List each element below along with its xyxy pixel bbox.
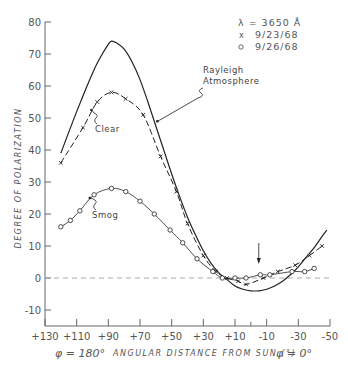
rayleigh-leader <box>158 88 203 121</box>
series-rayleigh-atmosphere <box>61 41 327 291</box>
y-tick-label: 20 <box>28 209 41 220</box>
clear-leader <box>92 110 97 124</box>
circle-marker <box>152 212 156 216</box>
x-tick-label: +70 <box>129 331 150 342</box>
x-tick-label: -30 <box>290 331 306 342</box>
y-tick-label: 10 <box>28 241 41 252</box>
x-axis-title: ANGULAR DISTANCE FROM SUN (°) <box>112 349 296 358</box>
x-marker <box>202 254 206 258</box>
legend-marker-o <box>239 45 243 49</box>
x-marker <box>95 100 99 104</box>
series-line <box>61 92 322 284</box>
x-tick-label: +110 <box>63 331 90 342</box>
annotations <box>89 88 261 264</box>
circle-marker <box>109 186 113 190</box>
x-marker <box>110 91 114 95</box>
x-marker <box>141 113 145 117</box>
smog-leader-tip <box>89 197 92 200</box>
y-tick-label: -10 <box>25 305 41 316</box>
circle-marker <box>290 269 294 273</box>
legend-marker-x: x <box>239 31 245 40</box>
x-tick-label: +130 <box>31 331 58 342</box>
circle-marker <box>195 257 199 261</box>
x-tick-label: +10 <box>224 331 245 342</box>
circle-marker <box>168 228 172 232</box>
rayleigh-leader-tip <box>156 120 159 123</box>
circle-marker <box>268 273 272 277</box>
y-tick-label: 60 <box>28 81 41 92</box>
data-series <box>59 41 327 291</box>
y-tick-label: 50 <box>28 113 41 124</box>
x-tick-label: +50 <box>161 331 182 342</box>
x-marker <box>320 244 324 248</box>
series-line <box>61 41 327 291</box>
circle-marker <box>258 273 262 277</box>
circle-marker <box>124 189 128 193</box>
rayleigh-label-line1: Rayleigh <box>203 65 244 75</box>
legend-date-clear: 9/23/68 <box>255 29 299 40</box>
series-clear <box>59 91 324 287</box>
circle-marker <box>138 199 142 203</box>
x-marker <box>81 126 85 130</box>
y-axis-title: DEGREE OF POLARIZATION <box>14 108 23 249</box>
y-tick-label: 70 <box>28 49 41 60</box>
polarization-chart: 80706050403020100-10+130+110+90+70+50+30… <box>0 0 348 368</box>
circle-marker <box>181 241 185 245</box>
circle-marker <box>220 276 224 280</box>
smog-leader <box>90 198 96 210</box>
x-marker <box>124 97 128 101</box>
circle-marker <box>78 209 82 213</box>
circle-marker <box>92 193 96 197</box>
circle-marker <box>233 276 237 280</box>
rayleigh-label-line2: Atmosphere <box>203 76 259 86</box>
x-tick-label: -50 <box>322 331 338 342</box>
x-axis-right-label: φ = 0° <box>276 347 312 360</box>
y-tick-label: 0 <box>35 273 41 284</box>
legend-date-smog: 9/26/68 <box>255 41 299 52</box>
circle-marker <box>302 269 306 273</box>
circle-marker <box>312 266 316 270</box>
circle-marker <box>59 225 63 229</box>
x-marker <box>59 161 63 165</box>
circle-marker <box>211 269 215 273</box>
axes: 80706050403020100-10+130+110+90+70+50+30… <box>25 17 339 343</box>
x-marker <box>293 263 297 267</box>
sun-arrow-head-icon <box>257 258 261 264</box>
legend-wavelength: λ = 3650 Å <box>238 17 301 28</box>
x-tick-label: +90 <box>98 331 119 342</box>
clear-label: Clear <box>95 124 120 134</box>
series-smog <box>59 186 317 280</box>
circle-marker <box>68 218 72 222</box>
x-axis-left-label: φ = 180° <box>55 347 105 360</box>
y-tick-label: 40 <box>28 145 41 156</box>
series-line <box>61 188 314 278</box>
y-tick-label: 30 <box>28 177 41 188</box>
smog-label: Smog <box>92 210 118 220</box>
circle-marker <box>244 276 248 280</box>
x-tick-label: +30 <box>193 331 214 342</box>
legend: λ = 3650 Å x 9/23/68 9/26/68 <box>238 17 301 52</box>
x-tick-label: -10 <box>258 331 274 342</box>
y-tick-label: 80 <box>28 17 41 28</box>
clear-leader-tip <box>90 109 93 112</box>
